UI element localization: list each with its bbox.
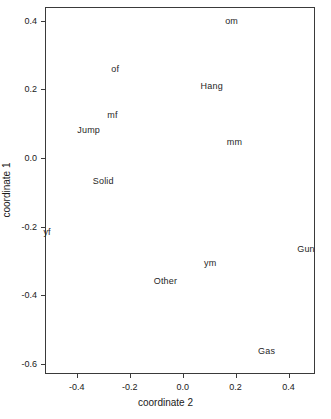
- y-tick-mark: [41, 295, 45, 296]
- x-tick-mark: [77, 374, 78, 378]
- x-axis-title: coordinate 2: [0, 398, 331, 408]
- y-axis-title: coordinate 1: [2, 162, 12, 217]
- y-tick-mark: [41, 21, 45, 22]
- y-tick-mark: [41, 227, 45, 228]
- x-tick-mark: [130, 374, 131, 378]
- scatter-plot-figure: omofHangmfJumpmmSolidyfGunymOtherGas -0.…: [0, 0, 331, 419]
- data-point-label: Hang: [201, 81, 223, 90]
- data-point-label: Gun: [297, 245, 315, 254]
- x-tick-mark: [183, 374, 184, 378]
- y-tick-mark: [41, 364, 45, 365]
- y-tick-mark: [41, 89, 45, 90]
- data-point-label: ym: [204, 258, 216, 267]
- x-tick-label: 0.4: [282, 383, 295, 392]
- data-point-label: mf: [107, 111, 117, 120]
- data-point-label: Jump: [77, 125, 100, 134]
- data-point-label: of: [111, 64, 119, 73]
- x-tick-mark: [236, 374, 237, 378]
- y-tick-label: -0.2: [21, 222, 37, 231]
- y-tick-label: -0.4: [21, 291, 37, 300]
- x-tick-label: -0.4: [69, 383, 85, 392]
- y-tick-label: 0.4: [24, 16, 37, 25]
- x-tick-label: 0.2: [229, 383, 242, 392]
- y-tick-label: -0.6: [21, 359, 37, 368]
- data-point-label: Gas: [258, 346, 275, 355]
- x-tick-label: 0.0: [176, 383, 189, 392]
- data-point-label: Other: [154, 277, 178, 286]
- data-point-label: mm: [227, 138, 242, 147]
- data-point-label: Solid: [93, 177, 114, 186]
- y-tick-label: 0.2: [24, 85, 37, 94]
- y-tick-mark: [41, 158, 45, 159]
- x-tick-label: -0.2: [122, 383, 138, 392]
- x-tick-mark: [289, 374, 290, 378]
- data-point-layer: omofHangmfJumpmmSolidyfGunymOtherGas: [45, 7, 315, 374]
- data-point-label: yf: [43, 227, 50, 236]
- data-point-label: om: [225, 16, 238, 25]
- y-tick-label: 0.0: [24, 153, 37, 162]
